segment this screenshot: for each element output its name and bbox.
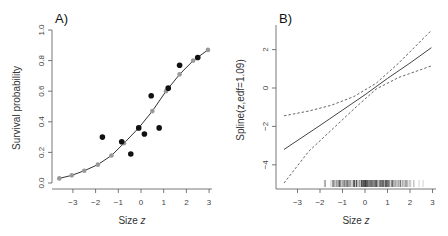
panel-a-x-ticks: −3−2−10123 bbox=[68, 189, 212, 207]
panel-a: A) 0.00.20.40.60.81.0 −3−2−10123 Size z … bbox=[11, 11, 212, 226]
fitted-point bbox=[69, 173, 74, 178]
y-tick-label: 0.4 bbox=[37, 116, 46, 128]
x-tick-label: 0 bbox=[139, 198, 144, 207]
panel-b-x-ticks: −3−2−10123 bbox=[293, 189, 435, 207]
panel-b-spline-line bbox=[284, 48, 431, 150]
x-tick-label: 1 bbox=[385, 198, 390, 207]
y-tick-label: 0.0 bbox=[37, 177, 46, 189]
x-tick-label: −1 bbox=[338, 198, 348, 207]
observed-point bbox=[142, 131, 148, 137]
fitted-point bbox=[206, 48, 211, 53]
observed-point bbox=[156, 125, 162, 131]
panel-a-fitted-points bbox=[57, 48, 210, 181]
y-tick-label: 0 bbox=[261, 85, 270, 90]
panel-a-label: A) bbox=[55, 11, 68, 26]
y-tick-label: −4 bbox=[261, 160, 270, 170]
x-tick-label: −2 bbox=[315, 198, 325, 207]
y-tick-label: 0.8 bbox=[37, 54, 46, 66]
fitted-point bbox=[96, 162, 101, 167]
panel-b-y-ticks: −4−202 bbox=[261, 47, 276, 170]
observed-point bbox=[177, 62, 183, 68]
x-tick-label: 3 bbox=[430, 198, 435, 207]
x-tick-label: 2 bbox=[184, 198, 189, 207]
observed-point bbox=[136, 125, 142, 131]
x-tick-label: −3 bbox=[68, 198, 78, 207]
fitted-point bbox=[150, 109, 155, 114]
panel-a-fitted-line bbox=[59, 50, 208, 179]
observed-point bbox=[165, 85, 171, 91]
panel-b-x-label: Size z bbox=[342, 215, 369, 226]
x-tick-label: 0 bbox=[363, 198, 368, 207]
observed-point bbox=[128, 151, 134, 157]
x-tick-label: −3 bbox=[293, 198, 303, 207]
x-tick-label: −1 bbox=[114, 198, 124, 207]
panel-a-y-label: Survival probability bbox=[11, 66, 22, 150]
observed-point bbox=[100, 134, 106, 140]
panel-b-y-label: Spline(z,edf=1.09) bbox=[235, 59, 246, 140]
y-tick-label: 0.2 bbox=[37, 146, 46, 158]
y-tick-label: 0.6 bbox=[37, 85, 46, 97]
panel-b-rug bbox=[324, 180, 423, 187]
panel-b-lower-band bbox=[284, 66, 431, 183]
fitted-point bbox=[82, 168, 87, 173]
x-tick-label: 1 bbox=[161, 198, 166, 207]
x-tick-label: 3 bbox=[207, 198, 212, 207]
fitted-point bbox=[57, 176, 62, 181]
observed-point bbox=[119, 139, 125, 145]
y-tick-label: −2 bbox=[261, 121, 270, 131]
panel-b: B) −4−202 −3−2−10123 Size z Spline(z,edf… bbox=[235, 11, 436, 226]
x-tick-label: 2 bbox=[408, 198, 413, 207]
panel-a-observed-points bbox=[100, 55, 201, 157]
panel-b-label: B) bbox=[279, 11, 292, 26]
panel-b-upper-band bbox=[284, 30, 431, 115]
panel-a-y-ticks: 0.00.20.40.60.81.0 bbox=[37, 24, 52, 189]
panel-a-x-label: Size z bbox=[118, 215, 145, 226]
observed-point bbox=[148, 93, 154, 99]
fitted-point bbox=[109, 153, 114, 158]
fitted-point bbox=[191, 58, 196, 63]
fitted-point bbox=[177, 72, 182, 77]
y-tick-label: 1.0 bbox=[37, 24, 46, 36]
figure: A) 0.00.20.40.60.81.0 −3−2−10123 Size z … bbox=[0, 0, 448, 236]
y-tick-label: 2 bbox=[261, 47, 270, 52]
x-tick-label: −2 bbox=[91, 198, 101, 207]
observed-point bbox=[195, 55, 201, 61]
